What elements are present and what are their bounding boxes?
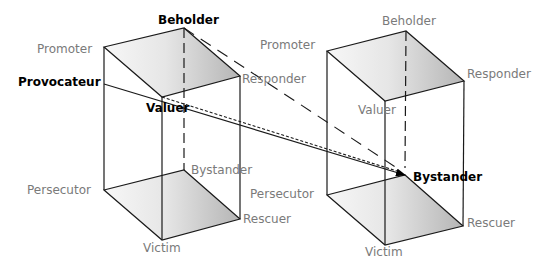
right-bottom-face <box>327 175 463 245</box>
right-label-victim: Victim <box>365 245 403 259</box>
right-cube <box>327 31 464 245</box>
left-label-valuer: Valuer <box>146 101 189 115</box>
left-label-beholder: Beholder <box>158 13 219 27</box>
left-label-victim: Victim <box>143 241 181 255</box>
left-label-bystander: Bystander <box>191 163 252 177</box>
left-label-provocateur: Provocateur <box>18 75 101 89</box>
right-label-valuer: Valuer <box>358 103 396 117</box>
right-label-rescuer: Rescuer <box>467 216 515 230</box>
left-label-responder: Responder <box>242 72 306 86</box>
right-label-persecutor: Persecutor <box>250 187 314 201</box>
right-label-responder: Responder <box>467 67 531 81</box>
right-label-bystander: Bystander <box>413 170 482 184</box>
right-edge-responder-rescuer <box>463 81 464 226</box>
left-label-persecutor: Persecutor <box>27 183 91 197</box>
connector-provocateur-to-bystander-arrow <box>104 84 405 175</box>
left-bottom-face <box>104 170 240 240</box>
right-label-beholder: Beholder <box>382 14 436 28</box>
right-label-promoter: Promoter <box>260 38 315 52</box>
drama-cube-diagram: Promoter Beholder Responder Valuer Provo… <box>0 0 555 268</box>
left-top-face <box>104 28 240 97</box>
left-cube <box>104 28 240 240</box>
right-top-face <box>327 31 464 101</box>
left-label-rescuer: Rescuer <box>243 212 291 226</box>
left-label-promoter: Promoter <box>37 42 92 56</box>
